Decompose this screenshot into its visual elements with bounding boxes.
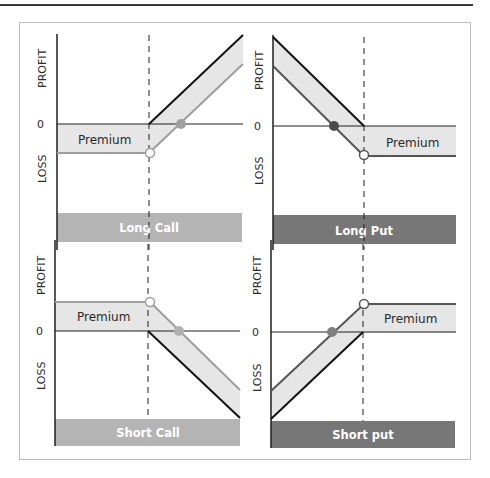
premium-label: Premium xyxy=(386,136,439,150)
breakeven-dot xyxy=(176,119,186,129)
loss-axis-label: LOSS xyxy=(251,364,264,392)
loss-axis-label: LOSS xyxy=(35,362,48,390)
loss-axis-label: LOSS xyxy=(253,157,266,185)
profit-axis-label: PROFIT xyxy=(251,255,264,295)
zero-tick: 0 xyxy=(252,326,259,339)
zero-tick: 0 xyxy=(254,120,261,133)
breakeven-dot xyxy=(174,326,184,336)
profit-axis-label: PROFIT xyxy=(36,48,49,88)
strike-hollow-dot xyxy=(360,300,369,309)
strategy-label: Short Call xyxy=(116,426,180,440)
zero-tick: 0 xyxy=(37,118,44,131)
breakeven-dot xyxy=(329,121,339,131)
strike-hollow-dot xyxy=(146,149,155,158)
payoff-line xyxy=(273,37,364,126)
loss-axis-label: LOSS xyxy=(36,155,49,183)
zero-tick: 0 xyxy=(36,325,43,338)
panel-short-put: Short put Premium 0 PROFIT LOSS xyxy=(251,240,456,448)
strike-hollow-dot xyxy=(146,298,155,307)
strike-hollow-dot xyxy=(360,151,369,160)
options-payoff-diagram: Long Call Premium 0 PROFIT LOSS Long Put… xyxy=(0,0,490,478)
strategy-label: Short put xyxy=(332,428,394,442)
panel-long-call: Long Call Premium 0 PROFIT LOSS xyxy=(36,34,243,250)
premium-label: Premium xyxy=(78,133,131,147)
profit-axis-label: PROFIT xyxy=(253,50,266,90)
payoff-line xyxy=(149,35,243,124)
premium-label: Premium xyxy=(384,312,437,326)
payoff-line xyxy=(271,332,363,419)
breakeven-dot xyxy=(327,327,337,337)
profit-axis-label: PROFIT xyxy=(35,255,48,295)
panel-long-put: Long Put Premium 0 PROFIT LOSS xyxy=(253,35,456,250)
premium-label: Premium xyxy=(77,310,130,324)
panel-short-call: Short Call Premium 0 PROFIT LOSS xyxy=(35,240,240,446)
